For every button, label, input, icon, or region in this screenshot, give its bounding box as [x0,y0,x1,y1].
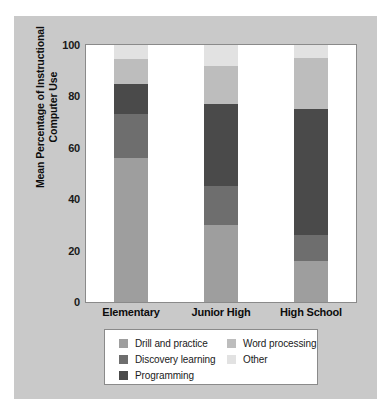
y-tick-label: 60 [68,142,80,153]
y-tick-label: 0 [74,297,80,308]
legend-swatch-icon [119,355,128,364]
legend-label: Drill and practice [135,338,208,349]
bar-segment-other [114,45,148,59]
bar-segment-other [204,45,238,66]
bar-segment-discovery-learning [114,114,148,158]
legend-entry: Drill and practice [119,336,215,351]
bar-segment-programming [294,109,328,235]
bar-segment-drill-and-practice [294,261,328,302]
plot-frame [85,44,357,303]
bar-segment-drill-and-practice [114,158,148,302]
figure-panel: 020406080100 Mean Percentage of Instruct… [14,16,377,399]
bar-segment-word-processing [294,58,328,109]
y-tick-label: 100 [62,40,80,51]
y-tick-label: 40 [68,194,80,205]
legend-swatch-icon [119,339,128,348]
legend-label: Discovery learning [135,354,215,365]
plot-area [86,45,356,302]
bar-high-school [294,45,328,302]
x-tick-label-elementary: Elementary [102,306,159,318]
legend-entry: Programming [119,368,215,383]
bar-segment-discovery-learning [204,186,238,225]
legend-entry: Word processing [227,336,316,351]
legend-entry: Discovery learning [119,352,215,367]
legend-swatch-icon [119,371,128,380]
x-axis: ElementaryJunior HighHigh School [85,306,357,324]
legend-label: Programming [135,370,194,381]
bar-segment-other [294,45,328,58]
bar-junior-high [204,45,238,302]
legend-label: Word processing [243,338,316,349]
chart-legend: Drill and practiceDiscovery learningProg… [104,329,318,385]
bar-segment-discovery-learning [294,235,328,261]
bar-elementary [114,45,148,302]
bar-segment-drill-and-practice [204,225,238,302]
bar-segment-programming [114,84,148,115]
y-tick-label: 80 [68,91,80,102]
legend-swatch-icon [227,355,236,364]
x-tick-label-junior-high: Junior High [192,306,251,318]
legend-swatch-icon [227,339,236,348]
x-tick-label-high-school: High School [280,306,342,318]
bar-segment-programming [204,104,238,186]
legend-entry: Other [227,352,316,367]
bar-segment-word-processing [204,66,238,105]
legend-label: Other [243,354,268,365]
legend-column-left: Drill and practiceDiscovery learningProg… [119,336,215,384]
y-tick-label: 20 [68,245,80,256]
legend-column-right: Word processingOther [227,336,316,368]
bar-segment-word-processing [114,59,148,83]
y-axis-title: Mean Percentage of Instructional Compute… [34,12,60,202]
